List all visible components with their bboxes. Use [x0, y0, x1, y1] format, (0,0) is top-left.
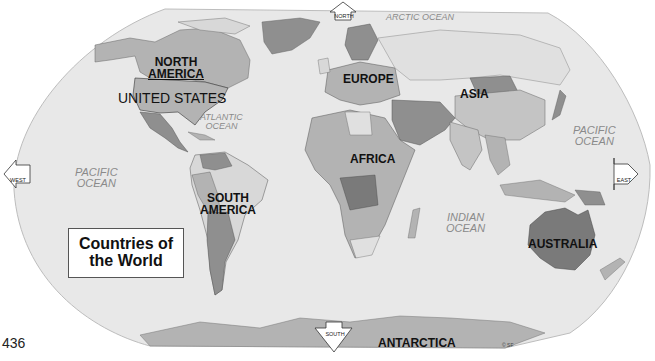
label-line: OCEAN — [573, 136, 616, 147]
compass-east-label: EAST — [613, 177, 635, 183]
label-atlantic-ocean: ATLANTIC OCEAN — [200, 113, 243, 131]
label-africa: AFRICA — [350, 153, 395, 165]
label-line: OCEAN — [75, 178, 118, 189]
uk — [318, 58, 330, 74]
compass-west-label: WEST — [7, 177, 29, 183]
label-line: AMERICA — [200, 204, 256, 216]
label-south-america: SOUTH AMERICA — [200, 192, 256, 216]
label-antarctica: ANTARCTICA — [378, 337, 456, 349]
label-australia: AUSTRALIA — [528, 238, 597, 250]
label-pacific-ocean-west: PACIFIC OCEAN — [75, 167, 118, 189]
label-indian-ocean: INDIAN OCEAN — [446, 212, 485, 234]
map-title-line-1: Countries of — [79, 236, 173, 253]
egypt-sahara — [345, 112, 372, 135]
label-line: OCEAN — [200, 122, 243, 131]
label-arctic-ocean: ARCTIC OCEAN — [386, 13, 454, 22]
compass-south-label: SOUTH — [322, 331, 348, 337]
label-europe: EUROPE — [343, 73, 394, 85]
page-number: 436 — [2, 335, 25, 351]
label-united-states: UNITED STATES — [118, 91, 226, 105]
label-pacific-ocean-east: PACIFIC OCEAN — [573, 125, 616, 147]
map-title-line-2: the World — [89, 253, 162, 270]
map-title-box: Countries of the World — [68, 228, 184, 278]
label-line: AMERICA — [148, 68, 204, 80]
label-north-america: NORTH AMERICA — [148, 56, 204, 80]
label-asia: ASIA — [460, 88, 489, 100]
copyright-mark: © SF — [502, 342, 513, 348]
label-line: OCEAN — [446, 223, 485, 234]
compass-north-label: NORTH — [333, 13, 355, 19]
